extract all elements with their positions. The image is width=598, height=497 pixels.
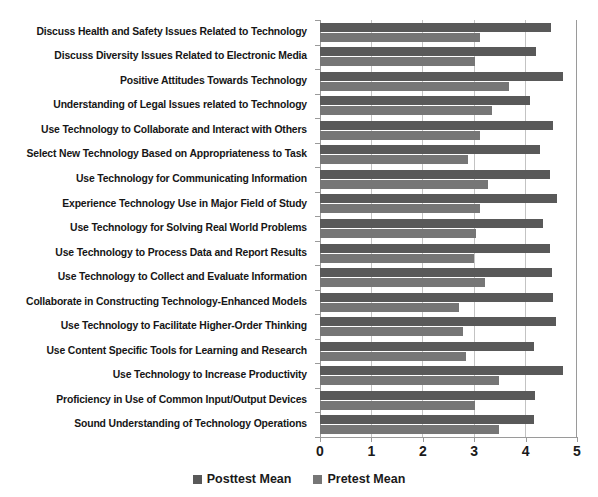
posttest-bar (320, 268, 552, 277)
bar-row (320, 339, 576, 364)
x-tick (320, 437, 321, 442)
bar-row (320, 167, 576, 192)
pretest-bar (320, 303, 459, 312)
bar-row (320, 94, 576, 119)
bar-row (320, 143, 576, 168)
posttest-bar (320, 219, 543, 228)
legend-swatch-icon (313, 475, 322, 484)
category-label: Understanding of Legal Issues related to… (0, 94, 314, 119)
legend-label: Pretest Mean (327, 472, 405, 486)
bar-row (320, 265, 576, 290)
posttest-bar (320, 317, 556, 326)
bar-row (320, 290, 576, 315)
category-label: Use Technology for Solving Real World Pr… (0, 216, 314, 241)
pretest-bar (320, 254, 474, 263)
x-tick (577, 437, 578, 442)
bar-row (320, 69, 576, 94)
pretest-bar (320, 401, 475, 410)
x-tick (526, 437, 527, 442)
category-label: Use Technology to Collaborate and Intera… (0, 118, 314, 143)
pretest-bar (320, 376, 499, 385)
category-label: Use Technology to Increase Productivity (0, 363, 314, 388)
gridline (576, 20, 577, 437)
category-label: Discuss Diversity Issues Related to Elec… (0, 45, 314, 70)
x-tick-label: 2 (419, 443, 427, 459)
legend-item[interactable]: Pretest Mean (313, 472, 405, 486)
posttest-bar (320, 366, 563, 375)
bar-row (320, 45, 576, 70)
posttest-bar (320, 342, 534, 351)
legend-swatch-icon (193, 475, 202, 484)
pretest-bar (320, 180, 488, 189)
x-tick (474, 437, 475, 442)
bar-row (320, 363, 576, 388)
x-tick-label: 3 (470, 443, 478, 459)
category-label: Collaborate in Constructing Technology-E… (0, 290, 314, 315)
x-tick-label: 5 (573, 443, 581, 459)
bar-row (320, 241, 576, 266)
category-label: Use Technology to Collect and Evaluate I… (0, 265, 314, 290)
x-tick-label: 0 (316, 443, 324, 459)
pretest-bar (320, 327, 463, 336)
category-label: Use Technology to Facilitate Higher-Orde… (0, 314, 314, 339)
category-label: Sound Understanding of Technology Operat… (0, 413, 314, 438)
bar-row (320, 118, 576, 143)
bar-row (320, 314, 576, 339)
posttest-bar (320, 415, 534, 424)
bar-row (320, 192, 576, 217)
pretest-bar (320, 229, 476, 238)
pretest-bar (320, 155, 468, 164)
bar-row (320, 413, 576, 438)
posttest-bar (320, 170, 550, 179)
category-label: Use Content Specific Tools for Learning … (0, 339, 314, 364)
legend-label: Posttest Mean (207, 472, 292, 486)
category-label: Use Technology for Communicating Informa… (0, 167, 314, 192)
posttest-bar (320, 72, 563, 81)
posttest-bar (320, 145, 540, 154)
posttest-bar (320, 244, 550, 253)
pretest-bar (320, 33, 480, 42)
x-axis-tick-labels: 012345 (320, 443, 577, 463)
posttest-bar (320, 23, 551, 32)
chart-legend: Posttest MeanPretest Mean (0, 468, 598, 490)
category-label: Use Technology to Process Data and Repor… (0, 241, 314, 266)
legend-item[interactable]: Posttest Mean (193, 472, 292, 486)
bar-chart: Discuss Health and Safety Issues Related… (0, 0, 598, 497)
pretest-bar (320, 278, 485, 287)
pretest-bar (320, 131, 480, 140)
posttest-bar (320, 391, 535, 400)
pretest-bar (320, 82, 509, 91)
pretest-bar (320, 425, 499, 434)
posttest-bar (320, 293, 553, 302)
category-label: Experience Technology Use in Major Field… (0, 192, 314, 217)
posttest-bar (320, 96, 530, 105)
bar-rows (320, 20, 576, 437)
plot-area (320, 20, 576, 437)
pretest-bar (320, 352, 466, 361)
posttest-bar (320, 194, 557, 203)
x-tick (371, 437, 372, 442)
category-label: Proficiency in Use of Common Input/Outpu… (0, 388, 314, 413)
bar-row (320, 20, 576, 45)
pretest-bar (320, 204, 480, 213)
posttest-bar (320, 121, 553, 130)
category-label: Select New Technology Based on Appropria… (0, 143, 314, 168)
category-label: Positive Attitudes Towards Technology (0, 69, 314, 94)
category-label: Discuss Health and Safety Issues Related… (0, 20, 314, 45)
x-tick-label: 4 (522, 443, 530, 459)
x-tick-label: 1 (367, 443, 375, 459)
pretest-bar (320, 57, 475, 66)
x-tick (423, 437, 424, 442)
posttest-bar (320, 47, 536, 56)
pretest-bar (320, 106, 492, 115)
bar-row (320, 388, 576, 413)
bar-row (320, 216, 576, 241)
category-axis-labels: Discuss Health and Safety Issues Related… (0, 20, 314, 437)
